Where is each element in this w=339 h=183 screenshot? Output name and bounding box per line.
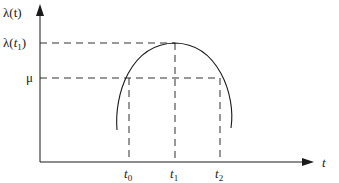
diagram-canvas: λ(t) λ(t1) μ t0 t1 t2 t	[0, 0, 339, 183]
x-tick-t2-label: t2	[215, 166, 223, 183]
x-tick-t1-label: t1	[170, 166, 178, 183]
x-axis-label: t	[322, 155, 326, 170]
diagram-svg: λ(t) λ(t1) μ t0 t1 t2 t	[0, 0, 339, 183]
y-tick-peak-label: λ(t1)	[3, 35, 26, 52]
lambda-curve	[117, 43, 232, 130]
y-tick-mu-label: μ	[26, 70, 33, 85]
x-axis-arrow-icon	[302, 158, 314, 166]
y-axis-label: λ(t)	[3, 5, 22, 20]
x-tick-t0-label: t0	[124, 166, 133, 183]
y-axis-arrow-icon	[36, 4, 44, 16]
